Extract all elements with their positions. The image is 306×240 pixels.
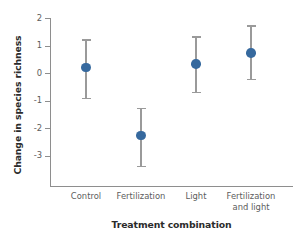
y-axis-spine — [50, 18, 51, 187]
x-axis-category-label-line1: Fertilization — [227, 191, 276, 201]
data-point-marker — [191, 59, 201, 69]
error-bar-cap-lower — [192, 92, 201, 93]
y-axis-tick — [45, 46, 50, 47]
y-axis-tick — [45, 18, 50, 19]
error-bar-cap-lower — [137, 166, 146, 167]
x-axis-category-label-line1: Light — [186, 191, 207, 201]
y-axis-tick-label: 0 — [20, 69, 42, 78]
y-axis-tick — [45, 128, 50, 129]
y-axis-tick-label: 1 — [20, 41, 42, 50]
error-bar-cap-upper — [82, 39, 91, 40]
x-axis-category-label: Fertilization and light — [214, 191, 288, 213]
data-point-marker — [136, 131, 146, 141]
y-axis-tick-label: -2 — [20, 124, 42, 133]
x-axis-spine — [50, 186, 293, 187]
x-axis-category-label-line2: and light — [233, 202, 270, 212]
error-bar-cap-upper — [192, 36, 201, 37]
x-axis-category-label-line1: Control — [71, 191, 101, 201]
data-point-marker — [81, 63, 91, 73]
y-axis-tick-label: -3 — [20, 151, 42, 160]
error-bar-cap-lower — [247, 79, 256, 80]
scatter-chart-figure: Change in species richness 2 1 0 -1 -2 -… — [0, 0, 306, 240]
y-axis-tick — [45, 156, 50, 157]
y-axis-tick-label: 2 — [20, 14, 42, 23]
error-bar-cap-upper — [247, 25, 256, 26]
error-bar-cap-upper — [137, 108, 146, 109]
data-point-marker — [246, 48, 256, 58]
y-axis-tick — [45, 73, 50, 74]
error-bar-cap-lower — [82, 98, 91, 99]
x-axis-title: Treatment combination — [50, 219, 293, 230]
y-axis-tick-label: -1 — [20, 96, 42, 105]
y-axis-tick — [45, 101, 50, 102]
